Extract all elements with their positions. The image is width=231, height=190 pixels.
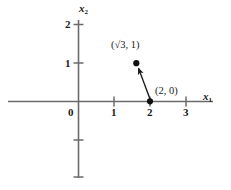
y-axis-label: x2 (79, 3, 88, 16)
point-label-sqrt3-1: (√3, 1) (111, 40, 140, 51)
rotation-arrow (139, 69, 150, 100)
point-marker-sqrt3-1 (133, 60, 139, 66)
x-tick-label-1: 1 (111, 107, 117, 118)
x-tick-label-2: 2 (147, 107, 153, 118)
x-axis-label-subscript: 1 (209, 96, 213, 104)
coordinate-plane-figure (0, 0, 231, 190)
origin-tick-label: 0 (68, 107, 74, 118)
point-marker-2-0 (147, 98, 153, 104)
y-axis-label-subscript: 2 (85, 8, 89, 16)
x-axis-label: x1 (203, 91, 212, 104)
point-label-2-0: (2, 0) (155, 86, 178, 97)
x-tick-label-3: 3 (183, 107, 189, 118)
y-tick-label-1: 1 (65, 58, 71, 69)
y-tick-label-2: 2 (65, 19, 71, 30)
